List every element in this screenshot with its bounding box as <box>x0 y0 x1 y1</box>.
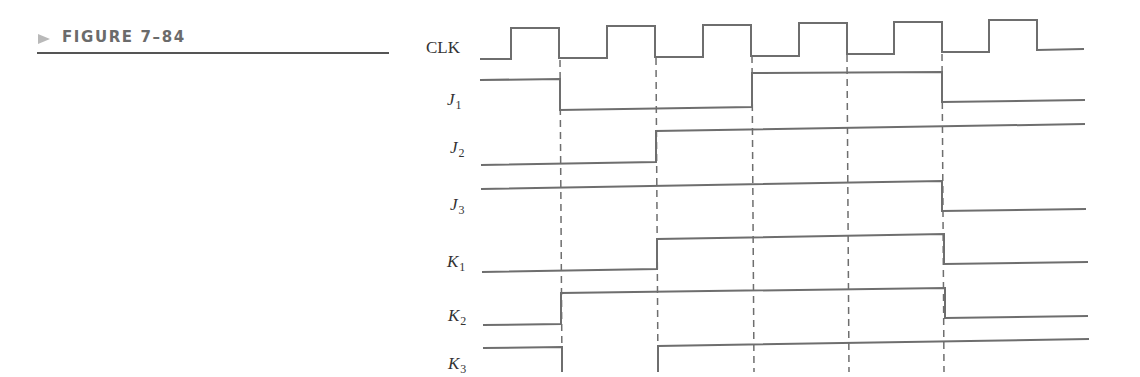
dashed-line-t2 <box>656 58 658 372</box>
dashed-line-t4 <box>847 55 849 372</box>
waveform-j2 <box>481 124 1085 165</box>
waveform-k3 <box>483 347 562 372</box>
waveform-clk <box>480 20 1084 59</box>
waveform-k1 <box>482 234 1088 272</box>
waveform-k2 <box>483 288 1088 325</box>
waveform-k3-high <box>658 339 1089 372</box>
waveform-j3 <box>481 181 1086 211</box>
waveform-j1 <box>480 72 1085 110</box>
